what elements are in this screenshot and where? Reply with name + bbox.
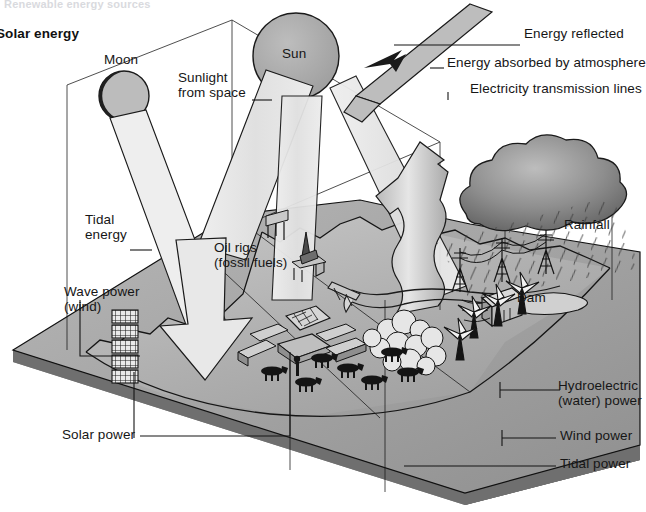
label-sun: Sun <box>282 46 306 61</box>
label-electricity-transmission-lines: Electricity transmission lines <box>470 81 642 96</box>
label-wave-power: Wave power (wind) <box>64 284 140 314</box>
label-solar-power: Solar power <box>62 427 135 442</box>
label-tidal-power: Tidal power <box>560 456 630 471</box>
label-rainfall: Rainfall <box>564 217 610 232</box>
label-moon: Moon <box>104 52 138 67</box>
label-dam: Dam <box>517 290 546 305</box>
label-tidal-energy: Tidal energy <box>85 212 127 242</box>
label-hydroelectric-power: Hydroelectric (water) power <box>558 378 642 408</box>
label-energy-reflected: Energy reflected <box>524 26 624 41</box>
label-oil-rigs: Oil rigs (fossil fuels) <box>214 240 287 270</box>
label-sunlight-from-space: Sunlight from space <box>178 70 246 100</box>
label-energy-absorbed: Energy absorbed by atmosphere <box>447 55 646 70</box>
ghost-page-title: Renewable energy sources <box>4 0 151 10</box>
section-title: Solar energy <box>0 26 79 41</box>
label-wind-power: Wind power <box>560 428 632 443</box>
